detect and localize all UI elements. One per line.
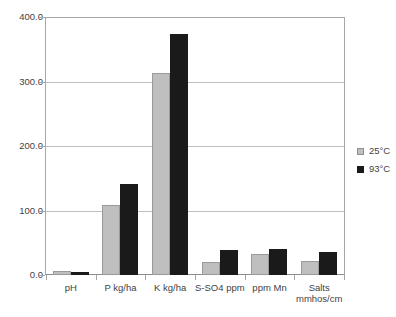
x-axis-labels: pHP kg/haK kg/haS-SO4 ppmppm MnSalts mmh… [46,282,344,304]
x-axis-tick-mark [344,275,345,280]
bar-group [251,18,287,275]
bar-chart: 400.0300.0200.0100.00.0 pHP kg/haK kg/ha… [0,0,396,317]
legend-item-label: 25°C [369,146,390,156]
bar-series-2[interactable] [269,249,287,275]
legend-swatch-icon [357,166,364,173]
bar-series-2[interactable] [71,272,89,275]
bar-group [202,18,238,275]
y-axis-tick-mark [39,146,45,147]
x-axis-label: Salts mmhos/cm [294,282,344,304]
x-axis-label: ppm Mn [245,282,295,304]
bar-series-1[interactable] [301,261,319,275]
x-axis-tick-mark [195,275,196,280]
bar-series-1[interactable] [251,254,269,275]
y-axis-tick-label: 200.0 [0,141,43,151]
legend-item-label: 93°C [369,164,390,174]
bar-group [152,18,188,275]
legend-swatch-icon [357,148,364,155]
y-axis-tick-label: 0.0 [0,270,43,280]
legend-item-series-2[interactable]: 93°C [357,164,390,174]
y-axis-tick-mark [39,82,45,83]
x-axis-label: S-SO4 ppm [195,282,245,304]
bar-series-1[interactable] [102,205,120,275]
x-axis-tick-mark [245,275,246,280]
bar-series-1[interactable] [152,73,170,275]
x-axis-tick-mark [96,275,97,280]
bar-series-2[interactable] [120,184,138,275]
bar-group [102,18,138,275]
x-axis-label: P kg/ha [96,282,146,304]
bar-series-1[interactable] [202,262,220,275]
y-axis-tick-mark [39,275,45,276]
y-axis-tick-label: 300.0 [0,77,43,87]
bar-group [53,18,89,275]
y-axis-tick-label: 400.0 [0,12,43,22]
bar-series-2[interactable] [220,250,238,275]
x-axis-tick-mark [145,275,146,280]
x-axis-tick-mark [46,275,47,280]
bar-group [301,18,337,275]
y-axis-tick-label: 100.0 [0,206,43,216]
bar-series-2[interactable] [319,252,337,275]
chart-legend: 25°C 93°C [357,146,390,174]
y-axis-tick-mark [39,211,45,212]
y-axis-tick-mark [39,17,45,18]
x-axis-label: K kg/ha [145,282,195,304]
legend-item-series-1[interactable]: 25°C [357,146,390,156]
bar-series-container [46,18,344,275]
bar-series-1[interactable] [53,271,71,275]
x-axis-label: pH [46,282,96,304]
bar-series-2[interactable] [170,34,188,275]
x-axis-tick-mark [294,275,295,280]
